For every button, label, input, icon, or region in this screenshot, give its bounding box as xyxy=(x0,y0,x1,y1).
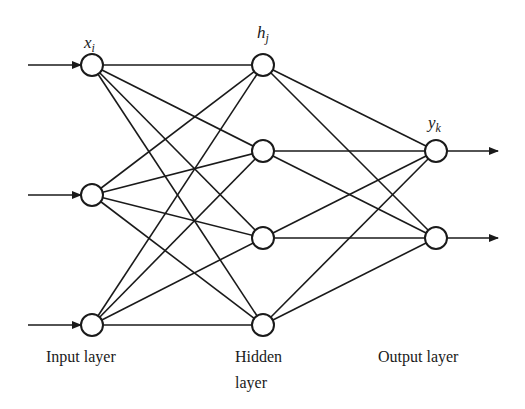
hidden-node xyxy=(252,314,274,336)
output-node xyxy=(425,227,447,249)
input-hidden-connection xyxy=(92,151,263,325)
input-hidden-connection xyxy=(92,238,263,325)
hidden-variable-label: hj xyxy=(257,24,269,44)
input-variable-label: xi xyxy=(84,34,95,54)
hidden-layer-label-line1: Hidden xyxy=(235,349,282,365)
input-layer-label: Input layer xyxy=(46,349,116,365)
output-layer-label: Output layer xyxy=(378,349,458,365)
input-hidden-connection xyxy=(92,65,263,151)
output-variable-label: yk xyxy=(428,114,441,134)
input-node xyxy=(81,54,103,76)
input-node xyxy=(81,314,103,336)
input-hidden-connection xyxy=(92,65,263,238)
hidden-node xyxy=(252,140,274,162)
input-hidden-connection xyxy=(92,151,263,195)
input-hidden-connection xyxy=(92,195,263,325)
input-hidden-connection xyxy=(92,195,263,238)
hidden-node xyxy=(252,227,274,249)
input-node xyxy=(81,184,103,206)
hidden-node xyxy=(252,54,274,76)
output-node xyxy=(425,140,447,162)
input-hidden-connection xyxy=(92,65,263,195)
hidden-output-connection xyxy=(263,238,436,325)
hidden-output-connection xyxy=(263,65,436,151)
hidden-layer-label-line2: layer xyxy=(235,375,267,391)
